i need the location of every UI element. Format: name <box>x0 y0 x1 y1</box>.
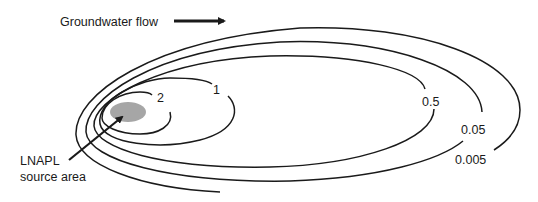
contour-label-2: 2 <box>157 91 164 105</box>
groundwater-flow-label: Groundwater flow <box>60 15 159 29</box>
source-label-line2: source area <box>20 170 86 184</box>
contour-label-1: 1 <box>213 83 220 97</box>
contour-label-0.005: 0.005 <box>455 153 486 167</box>
lnapl-source-area-shape <box>110 102 146 122</box>
contour-label-0.05: 0.05 <box>461 123 485 137</box>
source-label-line1: LNAPL <box>20 154 60 168</box>
plume-contour-diagram: Groundwater flow 2 1 0.5 0.05 0.005 LNAP… <box>0 0 538 202</box>
contour-label-0.5: 0.5 <box>422 95 439 109</box>
